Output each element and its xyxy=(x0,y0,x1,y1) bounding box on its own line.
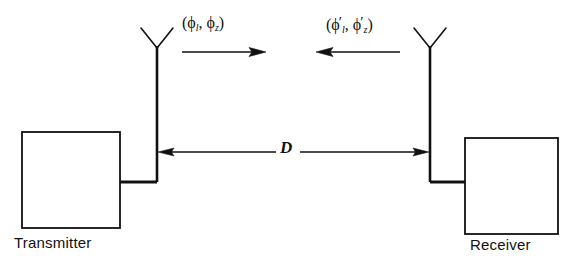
reverse-label-comma: , xyxy=(345,16,353,33)
forward-label-comma: , xyxy=(199,14,207,31)
radio-link-diagram: (ϕl, ϕz) (ϕ′l, ϕ′z) D Transmitter Receiv… xyxy=(0,0,575,266)
distance-arrowhead-right xyxy=(413,148,429,156)
receiver-caption: Receiver xyxy=(470,236,531,253)
distance-label: D xyxy=(280,138,292,158)
transmitter-caption: Transmitter xyxy=(14,234,92,251)
reverse-phase-label: (ϕ′l, ϕ′z) xyxy=(326,14,373,35)
diagram-canvas xyxy=(0,0,575,266)
forward-label-phi1: ϕ xyxy=(187,14,195,31)
forward-label-close-paren: ) xyxy=(219,14,224,31)
receiver-block xyxy=(465,138,558,234)
receiver-antenna-arms xyxy=(414,28,446,48)
distance-arrowhead-left xyxy=(158,148,174,156)
reverse-label-close-paren: ) xyxy=(367,16,372,33)
forward-label-phi2: ϕ xyxy=(207,14,215,31)
transmitter-block xyxy=(22,132,120,228)
forward-phase-label: (ϕl, ϕz) xyxy=(182,14,224,33)
transmitter-antenna-arms xyxy=(141,28,173,48)
